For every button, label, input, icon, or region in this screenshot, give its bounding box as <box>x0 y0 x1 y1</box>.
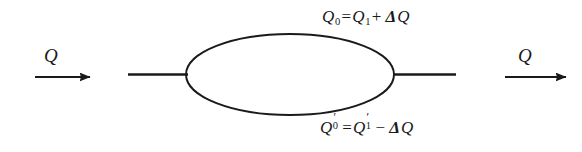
upper-delta-variable: Q <box>397 7 409 26</box>
lower-rhs-subscript: 1 <box>366 121 371 132</box>
lower-delta-variable: Q <box>401 118 413 137</box>
lower-rhs-prime-subscript: ′1 <box>366 116 375 133</box>
upper-operator-sign: + <box>372 7 382 26</box>
lower-delta-symbol: Δ <box>389 118 400 137</box>
diagram-linework <box>0 0 582 152</box>
lower-operator-sign: − <box>375 118 385 137</box>
upper-equals-sign: = <box>341 7 351 26</box>
outlet-flow-label: Q <box>518 46 532 65</box>
lower-branch-equation: Q′0=Q′1−ΔQ <box>320 116 414 136</box>
inlet-flow-label: Q <box>44 46 58 65</box>
lower-rhs-symbol: Q <box>353 118 365 137</box>
upper-lhs-symbol: Q <box>322 7 334 26</box>
upper-rhs-symbol: Q <box>352 7 364 26</box>
lower-lhs-subscript: 0 <box>333 121 338 132</box>
upper-lhs-subscript: 0 <box>335 16 340 27</box>
upper-rhs-subscript: 1 <box>365 16 370 27</box>
lower-lhs-symbol: Q <box>320 118 332 137</box>
upper-branch-equation: Q0=Q1+ΔQ <box>322 8 410 27</box>
diagram-canvas: Q Q Q0=Q1+ΔQ Q′0=Q′1−ΔQ <box>0 0 582 152</box>
lower-equals-sign: = <box>342 118 352 137</box>
upper-delta-symbol: Δ <box>386 7 397 26</box>
lower-lhs-prime-subscript: ′0 <box>332 116 341 133</box>
branch-loop <box>186 34 394 115</box>
